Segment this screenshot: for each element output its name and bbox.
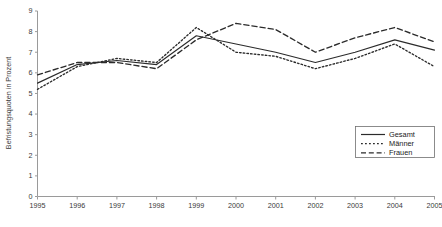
chart-container: 0123456789 19951996199719981999200020012…: [0, 0, 442, 227]
series-line-mnner: [38, 27, 435, 89]
line-chart: 0123456789 19951996199719981999200020012…: [0, 0, 442, 227]
x-tick-label: 1998: [149, 201, 165, 210]
legend-label: Frauen: [389, 148, 412, 157]
x-tick-label: 2002: [307, 201, 323, 210]
y-tick-label: 0: [29, 192, 33, 201]
y-axis-tick-labels: 0123456789: [29, 6, 33, 201]
y-tick-label: 9: [29, 6, 33, 15]
x-tick-label: 1995: [30, 201, 46, 210]
y-tick-label: 5: [29, 89, 33, 98]
x-tick-label: 2004: [387, 201, 403, 210]
legend-label: Gesamt: [389, 130, 415, 139]
x-tick-label: 2003: [347, 201, 363, 210]
data-series-group: [38, 23, 435, 89]
x-tick-label: 2001: [268, 201, 284, 210]
y-tick-label: 2: [29, 151, 33, 160]
y-tick-label: 4: [29, 109, 33, 118]
x-tick-label: 2000: [228, 201, 244, 210]
y-tick-label: 6: [29, 68, 33, 77]
x-tick-label: 2005: [427, 201, 442, 210]
x-tick-label: 1996: [69, 201, 85, 210]
series-line-gesamt: [38, 36, 435, 83]
legend-label: Männer: [389, 139, 415, 148]
x-axis-tick-labels: 1995199619971998199920002001200220032004…: [30, 201, 442, 210]
chart-legend: GesamtMännerFrauen: [356, 127, 435, 158]
y-axis-label: Befristungsquoten in Prozent: [4, 57, 13, 149]
x-axis: 1995199619971998199920002001200220032004…: [30, 197, 442, 211]
y-tick-label: 3: [29, 130, 33, 139]
x-tick-label: 1997: [109, 201, 125, 210]
x-tick-label: 1999: [188, 201, 204, 210]
y-tick-label: 7: [29, 48, 33, 57]
y-tick-label: 1: [29, 171, 33, 180]
y-tick-label: 8: [29, 27, 33, 36]
series-line-frauen: [38, 23, 435, 75]
y-axis: 0123456789: [29, 6, 38, 201]
